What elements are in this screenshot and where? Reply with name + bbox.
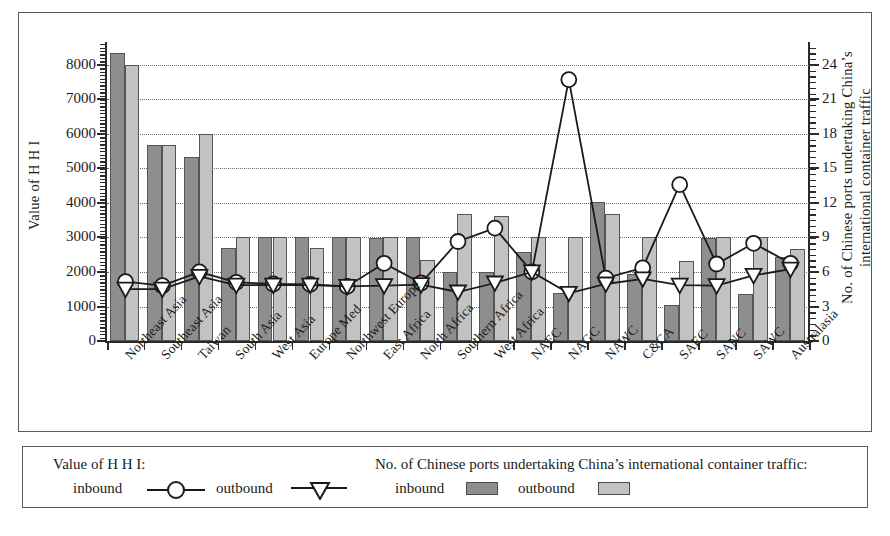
y-axis-right-title-line2: international container traffic — [856, 28, 874, 328]
y-axis-right-minor-tick — [810, 255, 816, 256]
y-axis-left-minor-tick — [100, 237, 106, 238]
y-axis-left-minor-tick — [100, 275, 106, 276]
y-axis-left-minor-tick — [100, 148, 106, 149]
y-axis-left-minor-tick — [100, 265, 106, 266]
y-axis-left-minor-tick — [100, 334, 106, 335]
y-axis-right-tick-label: 9 — [822, 229, 852, 244]
y-axis-left-minor-tick — [100, 313, 106, 314]
y-axis-right-minor-tick — [810, 105, 816, 106]
y-axis-right-minor-tick — [810, 243, 816, 244]
y-axis-left-minor-tick — [100, 324, 106, 325]
y-axis-left-minor-tick — [100, 134, 106, 135]
bar — [716, 237, 731, 341]
y-axis-right-tick-label: 6 — [822, 264, 852, 279]
y-axis-left-minor-tick — [100, 158, 106, 159]
y-axis-right-tick-label: 12 — [822, 195, 852, 210]
y-axis-left-minor-tick — [100, 96, 106, 97]
y-axis-left-tick-label: 5000 — [44, 160, 96, 175]
y-axis-right-minor-tick — [810, 59, 816, 60]
bar — [701, 238, 716, 341]
y-axis-right-minor-tick — [810, 180, 816, 181]
y-axis-right-minor-tick — [810, 117, 816, 118]
y-axis-left-minor-tick — [100, 213, 106, 214]
y-axis-left-minor-tick — [100, 65, 106, 66]
y-axis-right-minor-tick — [810, 168, 816, 169]
y-axis-left-minor-tick — [100, 286, 106, 287]
y-axis-left-minor-tick — [100, 296, 106, 297]
y-axis-left-tick-label: 2000 — [44, 264, 96, 279]
y-axis-left-minor-tick — [100, 61, 106, 62]
y-axis-left-tick-label: 6000 — [44, 126, 96, 141]
y-axis-right-minor-tick — [810, 122, 816, 123]
y-axis-right-tick-label: 15 — [822, 160, 852, 175]
legend-group1-title: Value of H H I: — [53, 456, 145, 473]
y-axis-left-minor-tick — [100, 117, 106, 118]
y-axis-left-minor-tick — [100, 82, 106, 83]
y-axis-right-minor-tick — [810, 145, 816, 146]
y-axis-right-minor-tick — [810, 94, 816, 95]
bar — [590, 202, 605, 341]
y-axis-left-minor-tick — [100, 79, 106, 80]
y-axis-left-minor-tick — [100, 54, 106, 55]
y-axis-left-tick-label: 7000 — [44, 91, 96, 106]
y-axis-left-minor-tick — [100, 234, 106, 235]
y-axis-left-minor-tick — [100, 89, 106, 90]
legend-group1-item-inbound: inbound — [73, 480, 122, 497]
y-axis-right-minor-tick — [810, 134, 816, 135]
light-swatch-icon — [598, 482, 630, 495]
y-axis-left-minor-tick — [100, 338, 106, 339]
y-axis-left-minor-tick — [100, 279, 106, 280]
y-axis-right-minor-tick — [810, 301, 816, 302]
y-axis-right-minor-tick — [810, 295, 816, 296]
y-axis-left-minor-tick — [100, 186, 106, 187]
y-axis-right-minor-tick — [810, 191, 816, 192]
y-axis-left-minor-tick — [100, 217, 106, 218]
y-axis-left-minor-tick — [100, 179, 106, 180]
y-axis-right-minor-tick — [810, 312, 816, 313]
y-axis-left-tick-label: 0 — [44, 333, 96, 348]
y-axis-right-minor-tick — [810, 48, 816, 49]
y-axis-right-minor-tick — [810, 249, 816, 250]
y-axis-left-tick-label: 8000 — [44, 57, 96, 72]
y-axis-right-minor-tick — [810, 260, 816, 261]
y-axis-left-minor-tick — [100, 317, 106, 318]
y-axis-left-minor-tick — [100, 272, 106, 273]
y-axis-left-minor-tick — [100, 130, 106, 131]
y-axis-left-minor-tick — [100, 106, 106, 107]
y-axis-right-tick-label: 21 — [822, 91, 852, 106]
y-axis-left-tick-label: 1000 — [44, 299, 96, 314]
y-axis-left-minor-tick — [100, 58, 106, 59]
y-axis-left-minor-tick — [100, 92, 106, 93]
x-axis-labels: Northeast AsiaSoutheast AsiaTaiwanSouth … — [0, 348, 890, 444]
y-axis-right-minor-tick — [810, 203, 816, 204]
y-axis-left-minor-tick — [100, 327, 106, 328]
y-axis-right-minor-tick — [810, 186, 816, 187]
y-axis-right-minor-tick — [810, 209, 816, 210]
y-axis-left-minor-tick — [100, 341, 106, 342]
y-axis-right-minor-tick — [810, 272, 816, 273]
y-axis-left-minor-tick — [100, 282, 106, 283]
y-axis-left-minor-tick — [100, 307, 106, 308]
y-axis-left-minor-tick — [100, 196, 106, 197]
y-axis-left-minor-tick — [100, 48, 106, 49]
y-axis-left-minor-tick — [100, 241, 106, 242]
bar — [236, 237, 251, 341]
y-axis-left-minor-tick — [100, 99, 106, 100]
y-axis-right-minor-tick — [810, 151, 816, 152]
y-axis-right-minor-tick — [810, 65, 816, 66]
bar — [568, 237, 583, 341]
y-axis-right-minor-tick — [810, 163, 816, 164]
y-axis-left-minor-tick — [100, 44, 106, 45]
y-axis-left-minor-tick — [100, 137, 106, 138]
y-axis-left-minor-tick — [100, 144, 106, 145]
legend-group2-item-inbound: inbound — [395, 480, 444, 497]
legend-panel: Value of H H I: inbound outbound No. of … — [22, 446, 868, 508]
y-axis-left-minor-tick — [100, 113, 106, 114]
y-axis-left-minor-tick — [100, 123, 106, 124]
legend-group2-item-outbound: outbound — [518, 480, 575, 497]
y-axis-left-minor-tick — [100, 293, 106, 294]
y-axis-right-minor-tick — [810, 237, 816, 238]
y-axis-left-minor-tick — [100, 110, 106, 111]
y-axis-right-minor-tick — [810, 214, 816, 215]
y-axis-left-minor-tick — [100, 206, 106, 207]
